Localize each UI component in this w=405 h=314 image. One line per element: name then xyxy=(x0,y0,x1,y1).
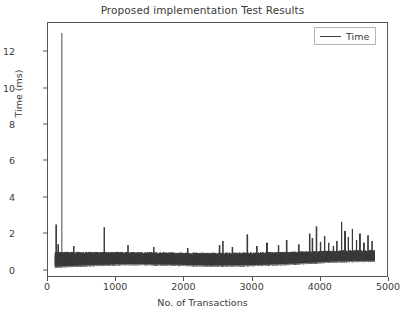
y-tick-label-2: 2 xyxy=(0,228,15,239)
chart-figure: Proposed implementation Test Results Tim… xyxy=(0,0,405,314)
x-tick-mark-5000 xyxy=(388,277,389,281)
chart-legend[interactable]: Time xyxy=(314,27,376,45)
x-tick-mark-3000 xyxy=(252,277,253,281)
x-tick-label-4000: 4000 xyxy=(290,281,350,292)
x-axis-label: No. of Transactions xyxy=(0,297,405,308)
y-tick-label-4: 4 xyxy=(0,191,15,202)
x-tick-mark-1000 xyxy=(115,277,116,281)
x-tick-label-1000: 1000 xyxy=(85,281,145,292)
y-tick-label-12: 12 xyxy=(0,46,15,57)
x-tick-mark-4000 xyxy=(320,277,321,281)
y-tick-label-10: 10 xyxy=(0,82,15,93)
x-tick-label-0: 0 xyxy=(17,281,77,292)
plot-area xyxy=(47,22,388,277)
x-tick-mark-2000 xyxy=(183,277,184,281)
legend-label-time: Time xyxy=(346,31,369,42)
x-tick-label-3000: 3000 xyxy=(222,281,282,292)
x-tick-mark-0 xyxy=(47,277,48,281)
x-tick-label-2000: 2000 xyxy=(153,281,213,292)
legend-line-swatch-time xyxy=(320,36,341,37)
y-tick-label-0: 0 xyxy=(0,264,15,275)
y-tick-label-6: 6 xyxy=(0,155,15,166)
series-time-plot xyxy=(48,23,387,276)
chart-title: Proposed implementation Test Results xyxy=(0,4,405,16)
x-tick-label-5000: 5000 xyxy=(358,281,405,292)
y-tick-label-8: 8 xyxy=(0,119,15,130)
